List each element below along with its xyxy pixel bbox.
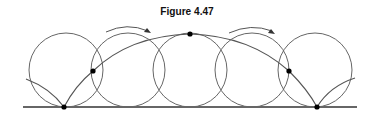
point-cusp-left [61, 104, 66, 109]
cycloid-diagram [0, 0, 374, 115]
cycloid-curve [26, 34, 355, 107]
tracked-points [61, 31, 319, 109]
point-cusp-right [314, 104, 319, 109]
circle-2 [91, 33, 165, 107]
rotation-arrow-2 [229, 27, 272, 33]
rolling-circles [29, 33, 352, 107]
arrowhead-1 [144, 28, 151, 33]
point-apex [187, 31, 192, 36]
point-falling [286, 68, 291, 73]
cycloid-right-arc [317, 78, 355, 107]
rotation-arrow-1 [106, 27, 148, 32]
circle-3 [153, 33, 227, 107]
point-rising [90, 68, 95, 73]
